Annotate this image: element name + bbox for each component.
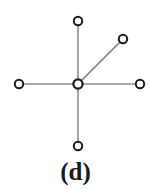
graph-node-center [73,79,82,88]
figure-container: (d) [0,0,151,189]
graph-node-leaf [74,142,82,150]
graph-node-leaf [15,80,23,88]
graph-edge [78,39,123,84]
graph-node-leaf [136,80,144,88]
graph-node-leaf [74,17,82,25]
graph-node-leaf [119,35,127,43]
figure-caption: (d) [0,157,151,187]
